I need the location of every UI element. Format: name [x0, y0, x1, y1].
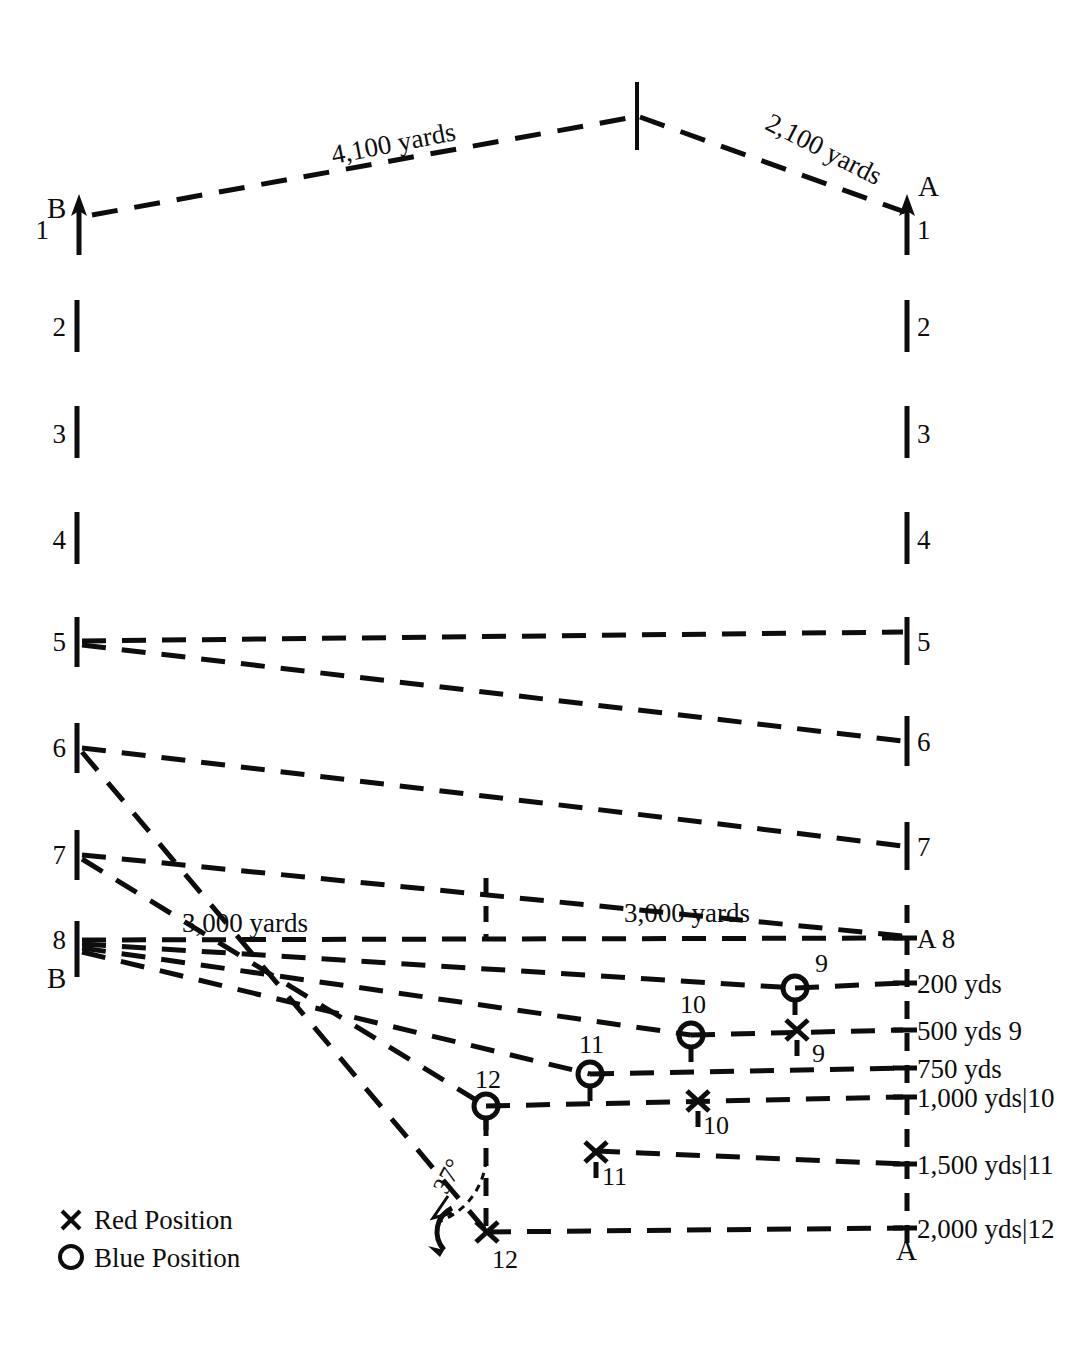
conn-r12	[487, 1228, 903, 1232]
range-label-750: 750 yds	[917, 1054, 1002, 1084]
left-tick-label-8: 8	[53, 925, 67, 955]
station-a-arrow	[899, 194, 915, 255]
conn-b11	[590, 1068, 903, 1074]
bearing-plot-figure: B A B A 1 2 3 4 5 6 7 8 1 2 3 4 5 6 7 A …	[0, 0, 1087, 1361]
left-tick-label-7: 7	[53, 840, 67, 870]
blue-marker-9	[783, 976, 807, 1015]
red-label-9: 9	[812, 1039, 825, 1068]
blue-label-12: 12	[475, 1065, 501, 1094]
distance-label-2100: 2,100 yards	[761, 107, 887, 191]
blue-label-9: 9	[815, 949, 828, 978]
baseline-leg-b	[92, 117, 634, 215]
legend-cross-marker	[62, 1211, 80, 1229]
red-label-12: 12	[492, 1245, 518, 1274]
station-b-arrow	[71, 194, 87, 255]
blue-marker-11	[578, 1062, 602, 1101]
blue-label-10: 10	[680, 990, 706, 1019]
range-label-2000: 2,000 yds|12	[917, 1214, 1054, 1244]
ray-b7-b12	[82, 859, 486, 1106]
angle-label-37: 37°	[427, 1154, 467, 1198]
left-tick-label-6: 6	[53, 733, 67, 763]
station-letter-b-top: B	[47, 192, 66, 224]
range-label-500: 500 yds 9	[917, 1016, 1022, 1046]
right-tick-label-1: 1	[917, 215, 931, 245]
ray-b6-r12	[82, 752, 487, 1232]
conn-r11	[596, 1151, 903, 1164]
ray-b8-b9	[82, 944, 795, 988]
diagram-canvas: B A B A 1 2 3 4 5 6 7 8 1 2 3 4 5 6 7 A …	[0, 0, 1087, 1361]
right-tick-label-7: 7	[917, 832, 931, 862]
red-marker-9	[786, 1020, 808, 1056]
distance-label-3000-right: 3,000 yards	[624, 898, 750, 928]
right-tick-label-3: 3	[917, 419, 931, 449]
right-tick-label-2: 2	[917, 312, 931, 342]
ray-b8-a8	[82, 938, 903, 940]
left-tick-label-1: 1	[36, 215, 50, 245]
baseline-group	[92, 82, 905, 215]
legend-label-red: Red Position	[94, 1205, 233, 1235]
right-tick-label-5: 5	[917, 627, 931, 657]
legend-circle-marker	[60, 1246, 82, 1268]
range-label-200: 200 yds	[917, 969, 1002, 999]
range-label-1500: 1,500 yds|11	[917, 1150, 1053, 1180]
legend-label-blue: Blue Position	[94, 1243, 241, 1273]
station-letter-a-top: A	[918, 170, 939, 202]
red-label-10: 10	[703, 1111, 729, 1140]
ray-b5-a5	[82, 632, 903, 641]
station-letter-b-bottom: B	[47, 962, 66, 994]
left-tick-label-4: 4	[53, 525, 67, 555]
blue-label-11: 11	[579, 1030, 604, 1059]
station-letter-a-bottom: A	[896, 1234, 917, 1266]
ray-b8-b10	[82, 948, 691, 1035]
right-tick-label-6: 6	[917, 727, 931, 757]
left-tick-label-2: 2	[53, 312, 67, 342]
range-label-a8: A 8	[917, 924, 955, 954]
ray-b6-a7	[82, 748, 903, 846]
left-tick-label-3: 3	[53, 419, 67, 449]
range-label-1000: 1,000 yds|10	[917, 1083, 1054, 1113]
ray-b5-a6	[82, 645, 903, 741]
distance-label-3000-left: 3,000 yards	[182, 908, 308, 938]
blue-marker-12	[474, 1094, 498, 1130]
conn-b9	[795, 983, 903, 988]
blue-markers	[474, 976, 807, 1130]
left-tick-label-5: 5	[53, 627, 67, 657]
right-tick-label-4: 4	[917, 525, 931, 555]
legend-symbols	[60, 1211, 82, 1268]
red-label-11: 11	[602, 1162, 627, 1191]
ray-b8-b11	[82, 952, 590, 1074]
blue-marker-10	[679, 1023, 703, 1062]
red-markers	[476, 1020, 808, 1242]
